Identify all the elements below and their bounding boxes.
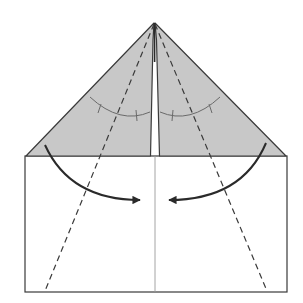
right-flap xyxy=(155,23,286,156)
origami-diagram xyxy=(0,0,303,303)
left-flap xyxy=(26,23,154,156)
rectangle-body xyxy=(25,156,287,292)
